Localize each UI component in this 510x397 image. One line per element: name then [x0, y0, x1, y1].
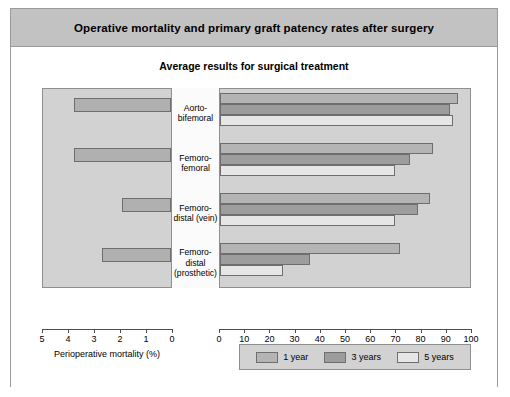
tick-left-1 — [146, 329, 147, 333]
legend-swatch-3-years — [324, 352, 346, 363]
figure-title-bar: Operative mortality and primary graft pa… — [11, 9, 497, 47]
right-chart-panel — [219, 88, 471, 288]
tick-label-right-40: 40 — [315, 334, 325, 344]
legend-label-5-years: 5 years — [424, 352, 454, 362]
tick-label-right-80: 80 — [416, 334, 426, 344]
tick-label-right-10: 10 — [239, 334, 249, 344]
tick-right-20 — [269, 329, 270, 333]
legend-item-1-year: 1 year — [256, 352, 308, 363]
category-label-4: Femoro-distal(prosthetic) — [172, 247, 219, 279]
bar-right-2-1-year — [220, 143, 433, 154]
tick-right-50 — [345, 329, 346, 333]
category-label-column: Aorto-bifemoralFemoro-femoralFemoro-dist… — [172, 88, 219, 288]
bar-right-1-5-years — [220, 115, 453, 126]
legend-item-5-years: 5 years — [397, 352, 454, 363]
bar-left-2-mortality — [74, 148, 171, 162]
category-label-2: Femoro-femoral — [172, 153, 219, 174]
bar-left-1-mortality — [74, 98, 171, 112]
category-label-3: Femoro-distal (vein) — [172, 203, 219, 224]
bar-right-1-1-year — [220, 93, 458, 104]
bar-right-3-5-years — [220, 215, 395, 226]
tick-right-40 — [320, 329, 321, 333]
tick-right-0 — [219, 329, 220, 333]
tick-right-70 — [395, 329, 396, 333]
tick-label-right-20: 20 — [264, 334, 274, 344]
bar-right-4-5-years — [220, 265, 283, 276]
tick-label-right-0: 0 — [216, 334, 221, 344]
bar-left-4-mortality — [102, 248, 171, 262]
tick-right-10 — [244, 329, 245, 333]
tick-right-90 — [446, 329, 447, 333]
tick-label-left-2: 2 — [117, 334, 122, 344]
bar-right-2-3-years — [220, 154, 410, 165]
tick-label-right-60: 60 — [365, 334, 375, 344]
tick-label-right-100: 100 — [463, 334, 478, 344]
bar-right-2-5-years — [220, 165, 395, 176]
tick-right-100 — [471, 329, 472, 333]
left-chart-panel — [42, 88, 172, 288]
tick-label-left-0: 0 — [169, 334, 174, 344]
charts-container: Aorto-bifemoralFemoro-femoralFemoro-dist… — [11, 88, 497, 303]
bar-right-3-3-years — [220, 204, 418, 215]
plot-area: Average results for surgical treatment A… — [11, 48, 497, 387]
legend-item-3-years: 3 years — [324, 352, 381, 363]
tick-label-right-50: 50 — [340, 334, 350, 344]
figure-frame: Operative mortality and primary graft pa… — [10, 8, 498, 387]
tick-right-60 — [370, 329, 371, 333]
tick-label-right-90: 90 — [441, 334, 451, 344]
bar-right-1-3-years — [220, 104, 450, 115]
bar-right-4-1-year — [220, 243, 400, 254]
tick-left-4 — [68, 329, 69, 333]
left-x-axis-line — [42, 329, 172, 330]
tick-label-left-4: 4 — [65, 334, 70, 344]
legend-swatch-1-year — [256, 352, 278, 363]
tick-left-5 — [42, 329, 43, 333]
legend-label-1-year: 1 year — [283, 352, 308, 362]
bar-left-3-mortality — [122, 198, 171, 212]
tick-right-80 — [421, 329, 422, 333]
tick-right-30 — [295, 329, 296, 333]
tick-label-right-70: 70 — [390, 334, 400, 344]
legend-label-3-years: 3 years — [351, 352, 381, 362]
tick-left-2 — [120, 329, 121, 333]
legend-swatch-5-years — [397, 352, 419, 363]
tick-label-left-5: 5 — [39, 334, 44, 344]
tick-label-right-30: 30 — [290, 334, 300, 344]
bar-right-3-1-year — [220, 193, 430, 204]
tick-left-3 — [94, 329, 95, 333]
chart-subtitle: Average results for surgical treatment — [11, 60, 497, 72]
tick-label-left-3: 3 — [91, 334, 96, 344]
legend: 1 year3 years5 years — [239, 344, 471, 370]
page-title: Operative mortality and primary graft pa… — [74, 22, 434, 34]
category-label-1: Aorto-bifemoral — [172, 103, 219, 124]
bar-right-4-3-years — [220, 254, 310, 265]
tick-left-0 — [172, 329, 173, 333]
left-axis-title: Perioperative mortality (%) — [54, 349, 160, 359]
tick-label-left-1: 1 — [143, 334, 148, 344]
